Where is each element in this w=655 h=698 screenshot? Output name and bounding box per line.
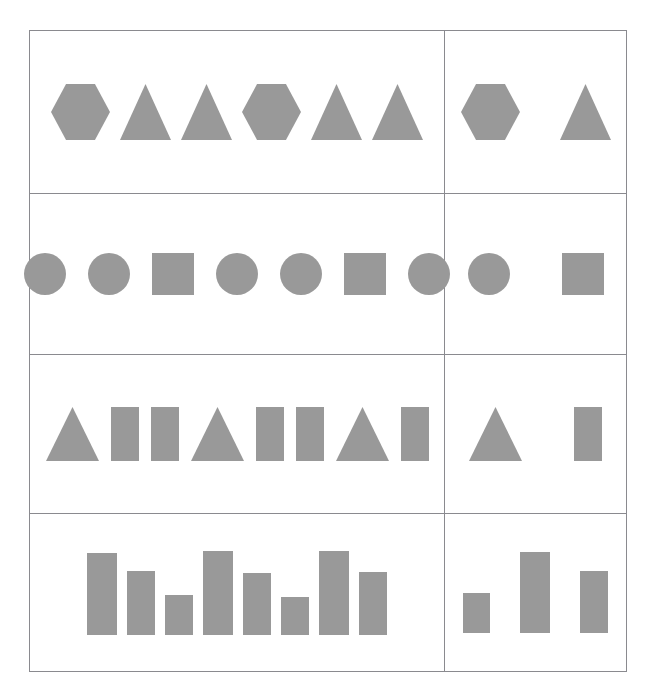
- puzzle-row-1: [30, 31, 626, 194]
- circle-shape: [408, 253, 450, 295]
- hexagon-shape[interactable]: [461, 84, 520, 140]
- sequence-cell-row-1: [30, 31, 445, 193]
- option-strip-row-4: [463, 552, 608, 633]
- sequence-item: [311, 84, 362, 140]
- option-item[interactable]: [574, 407, 602, 461]
- triangle-shape[interactable]: [469, 407, 522, 461]
- sequence-strip-row-1: [51, 84, 423, 140]
- hexagon-shape: [51, 84, 110, 140]
- sequence-item: [280, 253, 322, 295]
- option-item[interactable]: [461, 84, 520, 140]
- bar-shape[interactable]: [463, 593, 490, 633]
- circle-shape: [216, 253, 258, 295]
- sequence-strip-row-2: [24, 253, 450, 295]
- sequence-item: [120, 84, 171, 140]
- option-item[interactable]: [469, 407, 522, 461]
- rectangle-shape: [296, 407, 324, 461]
- puzzle-row-2: [30, 194, 626, 355]
- option-item[interactable]: [580, 571, 608, 633]
- bar-shape: [319, 551, 349, 635]
- sequence-item: [296, 407, 324, 461]
- bar-shape: [127, 571, 155, 635]
- options-cell-row-4: [445, 514, 626, 671]
- sequence-item: [46, 407, 99, 461]
- sequence-item: [191, 407, 244, 461]
- option-strip-row-1: [461, 84, 611, 140]
- bar-shape: [203, 551, 233, 635]
- sequence-item: [372, 84, 423, 140]
- rectangle-shape: [256, 407, 284, 461]
- sequence-cell-row-4: [30, 514, 445, 671]
- sequence-cell-row-3: [30, 355, 445, 514]
- sequence-strip-row-4: [87, 551, 387, 635]
- sequence-item: [111, 407, 139, 461]
- triangle-shape: [191, 407, 244, 461]
- sequence-item: [344, 253, 386, 295]
- option-item[interactable]: [463, 593, 490, 633]
- rectangle-shape[interactable]: [574, 407, 602, 461]
- square-shape: [152, 253, 194, 295]
- sequence-item: [87, 553, 117, 635]
- sequence-item: [24, 253, 66, 295]
- hexagon-shape: [242, 84, 301, 140]
- sequence-item: [256, 407, 284, 461]
- options-cell-row-1: [445, 31, 626, 193]
- bar-shape[interactable]: [520, 552, 550, 633]
- triangle-shape: [372, 84, 423, 140]
- sequence-item: [127, 571, 155, 635]
- triangle-shape: [120, 84, 171, 140]
- sequence-strip-row-3: [46, 407, 429, 461]
- bar-shape: [359, 572, 387, 635]
- option-item[interactable]: [562, 253, 604, 295]
- bar-shape: [165, 595, 193, 635]
- bar-shape: [243, 573, 271, 635]
- circle-shape: [24, 253, 66, 295]
- bar-shape[interactable]: [580, 571, 608, 633]
- bar-shape: [87, 553, 117, 635]
- puzzle-frame: [29, 30, 627, 672]
- sequence-item: [151, 407, 179, 461]
- sequence-item: [181, 84, 232, 140]
- triangle-shape: [336, 407, 389, 461]
- rectangle-shape: [111, 407, 139, 461]
- sequence-item: [165, 595, 193, 635]
- triangle-shape: [181, 84, 232, 140]
- sequence-item: [359, 572, 387, 635]
- sequence-item: [242, 84, 301, 140]
- square-shape: [344, 253, 386, 295]
- options-cell-row-3: [445, 355, 626, 514]
- sequence-item: [152, 253, 194, 295]
- square-shape[interactable]: [562, 253, 604, 295]
- sequence-item: [51, 84, 110, 140]
- sequence-item: [281, 597, 309, 635]
- sequence-item: [336, 407, 389, 461]
- triangle-shape: [311, 84, 362, 140]
- puzzle-row-4: [30, 514, 626, 671]
- option-item[interactable]: [560, 84, 611, 140]
- circle-shape: [280, 253, 322, 295]
- triangle-shape[interactable]: [560, 84, 611, 140]
- options-cell-row-2: [445, 194, 626, 354]
- sequence-item: [319, 551, 349, 635]
- triangle-shape: [46, 407, 99, 461]
- bar-shape: [281, 597, 309, 635]
- option-item[interactable]: [520, 552, 550, 633]
- rectangle-shape: [401, 407, 429, 461]
- sequence-item: [243, 573, 271, 635]
- sequence-cell-row-2: [30, 194, 445, 354]
- puzzle-canvas: [0, 0, 655, 698]
- sequence-item: [216, 253, 258, 295]
- circle-shape: [88, 253, 130, 295]
- sequence-item: [401, 407, 429, 461]
- sequence-item: [88, 253, 130, 295]
- option-item[interactable]: [468, 253, 510, 295]
- sequence-item: [203, 551, 233, 635]
- option-strip-row-3: [469, 407, 602, 461]
- option-strip-row-2: [468, 253, 604, 295]
- circle-shape[interactable]: [468, 253, 510, 295]
- puzzle-row-3: [30, 355, 626, 515]
- rectangle-shape: [151, 407, 179, 461]
- sequence-item: [408, 253, 450, 295]
